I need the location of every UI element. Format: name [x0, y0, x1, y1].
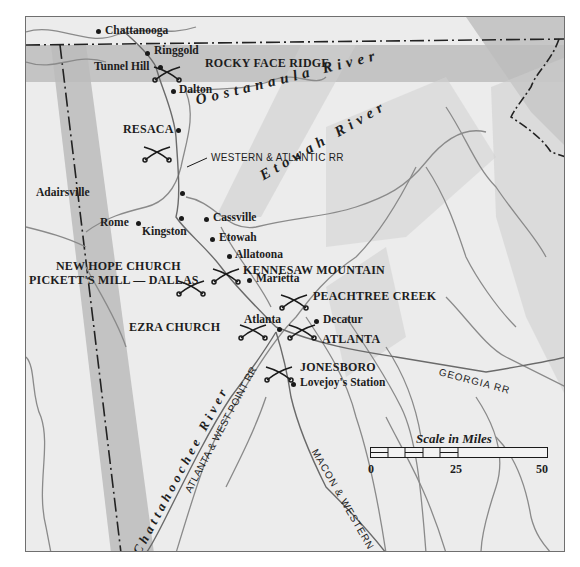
battle-label-kennesaw-mountain: KENNESAW MOUNTAIN	[243, 264, 385, 276]
town-label-lovejoys-station: Lovejoy's Station	[300, 377, 385, 389]
battle-label-new-hope-church: NEW HOPE CHURCH	[56, 260, 181, 272]
town-dot-rome	[136, 221, 141, 226]
crossed-swords-icon	[152, 65, 182, 83]
scale-tick-0: 0	[368, 463, 374, 475]
town-dot-resaca	[176, 128, 181, 133]
town-dot-dalton	[171, 89, 176, 94]
scale-title: Scale in Miles	[416, 432, 492, 445]
town-dot-marietta	[247, 278, 252, 283]
crossed-swords-icon	[287, 323, 317, 341]
town-label-decatur: Decatur	[323, 314, 363, 326]
town-dot-chattanooga	[96, 29, 101, 34]
battle-label-atlanta: ATLANTA	[322, 333, 380, 345]
band-east-region	[491, 57, 565, 397]
town-label-tunnel-hill: Tunnel Hill	[94, 61, 150, 73]
battle-label-peachtree-creek: PEACHTREE CREEK	[313, 290, 436, 302]
town-dot-kingston	[179, 216, 184, 221]
town-label-etowah: Etowah	[219, 232, 257, 244]
battle-label-resaca: RESACA	[123, 123, 174, 135]
crossed-swords-icon	[238, 323, 268, 341]
town-dot-cassville	[204, 217, 209, 222]
ridge-shade-center	[326, 77, 496, 247]
town-label-rome: Rome	[100, 217, 129, 229]
town-label-cassville: Cassville	[213, 212, 256, 224]
town-label-chattanooga: Chattanooga	[105, 25, 168, 37]
rr-label-western-atlantic: WESTERN & ATLANTIC RR	[211, 153, 344, 163]
crossed-swords-icon	[176, 279, 206, 297]
scale-tick-25: 25	[450, 463, 462, 475]
crossed-swords-icon	[264, 365, 294, 383]
town-label-ringgold: Ringgold	[154, 45, 199, 57]
town-dot-atlanta	[277, 327, 282, 332]
town-label-adairsville: Adairsville	[36, 187, 90, 199]
town-dot-ringgold	[145, 51, 150, 56]
rr-leader-line	[186, 156, 208, 168]
town-dot-allatoona	[227, 254, 232, 259]
battle-label-picketts-mill-dallas: PICKETT'S MILL — DALLAS	[29, 274, 199, 286]
town-label-allatoona: Allatoona	[235, 249, 283, 261]
town-label-kingston: Kingston	[142, 226, 187, 238]
scale-bar	[370, 447, 550, 459]
town-dot-etowah	[210, 237, 215, 242]
battle-label-jonesboro: JONESBORO	[300, 361, 376, 373]
map-frame: Chattanooga Ringgold Tunnel Hill Dalton …	[25, 16, 565, 552]
crossed-swords-icon	[211, 267, 241, 285]
crossed-swords-icon	[142, 145, 172, 163]
crossed-swords-icon	[279, 293, 309, 311]
town-dot-adairsville	[180, 191, 185, 196]
battle-label-ezra-church: EZRA CHURCH	[129, 321, 220, 333]
scale-tick-50: 50	[536, 463, 548, 475]
